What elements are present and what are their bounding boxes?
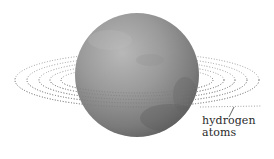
diagram-canvas: hydrogen atoms [0,0,274,159]
hydrogen-trail-line [200,106,261,107]
label-line-2: atoms [202,127,256,139]
hydrogen-atoms-label: hydrogen atoms [202,115,256,139]
